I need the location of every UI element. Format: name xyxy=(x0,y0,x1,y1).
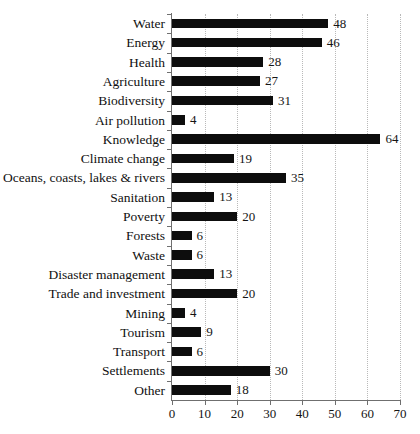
category-label: Biodiversity xyxy=(2,93,172,108)
bar-row: 30 xyxy=(172,361,400,380)
x-axis-tick-40 xyxy=(302,400,303,405)
bar-row: 19 xyxy=(172,149,400,168)
category-label: Water xyxy=(2,16,172,31)
bar xyxy=(172,57,263,67)
bar xyxy=(172,38,322,48)
bar-value-label: 4 xyxy=(190,305,197,320)
bar-value-label: 6 xyxy=(197,228,204,243)
bar xyxy=(172,308,185,318)
x-axis-tick-0 xyxy=(172,400,173,405)
category-label: Air pollution xyxy=(2,113,172,128)
bar xyxy=(172,231,192,241)
bar-row: 46 xyxy=(172,33,400,52)
y-axis-tick xyxy=(167,14,172,15)
category-label: Knowledge xyxy=(2,132,172,147)
category-label: Poverty xyxy=(2,209,172,224)
bar xyxy=(172,154,234,164)
bar-row: 31 xyxy=(172,91,400,110)
bar-row: 6 xyxy=(172,226,400,245)
bar-value-label: 46 xyxy=(327,35,340,50)
category-label: Health xyxy=(2,55,172,70)
bar-row: 20 xyxy=(172,207,400,226)
x-axis-tick-20 xyxy=(237,400,238,405)
category-label: Agriculture xyxy=(2,74,172,89)
bar xyxy=(172,19,328,29)
category-label: Mining xyxy=(2,306,172,321)
bar-value-label: 13 xyxy=(219,266,232,281)
bar-row: 27 xyxy=(172,72,400,91)
y-axis-tick xyxy=(167,207,172,208)
bar xyxy=(172,76,260,86)
bar-row: 64 xyxy=(172,130,400,149)
bar-value-label: 27 xyxy=(265,73,278,88)
category-axis-labels: WaterEnergyHealthAgricultureBiodiversity… xyxy=(0,14,172,400)
bar-row: 18 xyxy=(172,381,400,400)
bar-row: 20 xyxy=(172,284,400,303)
y-axis-tick xyxy=(167,188,172,189)
y-axis-tick xyxy=(167,342,172,343)
bar-value-label: 64 xyxy=(385,131,398,146)
category-label: Transport xyxy=(2,344,172,359)
bar-value-label: 4 xyxy=(190,112,197,127)
y-axis-tick xyxy=(167,111,172,112)
x-axis-tick-10 xyxy=(205,400,206,405)
bar-row: 9 xyxy=(172,323,400,342)
y-axis-tick xyxy=(167,361,172,362)
bar-row: 35 xyxy=(172,168,400,187)
bar-row: 28 xyxy=(172,53,400,72)
bar xyxy=(172,96,273,106)
x-axis-tick-70 xyxy=(400,400,401,405)
bar-value-label: 13 xyxy=(219,189,232,204)
bar-value-label: 20 xyxy=(242,286,255,301)
category-label: Climate change xyxy=(2,151,172,166)
x-axis-tick-50 xyxy=(335,400,336,405)
y-axis-tick xyxy=(167,265,172,266)
bar xyxy=(172,269,214,279)
category-label: Oceans, coasts, lakes & rivers xyxy=(2,170,172,185)
category-label: Tourism xyxy=(2,325,172,340)
bar-row: 48 xyxy=(172,14,400,33)
y-axis-tick xyxy=(167,91,172,92)
bar-value-label: 28 xyxy=(268,54,281,69)
bar-row: 13 xyxy=(172,188,400,207)
category-label: Waste xyxy=(2,248,172,263)
y-axis-tick xyxy=(167,72,172,73)
y-axis-tick xyxy=(167,381,172,382)
bar xyxy=(172,347,192,357)
bar xyxy=(172,250,192,260)
category-label: Other xyxy=(2,383,172,398)
y-axis-tick xyxy=(167,246,172,247)
bar xyxy=(172,212,237,222)
bar xyxy=(172,289,237,299)
bar-row: 4 xyxy=(172,304,400,323)
category-label: Energy xyxy=(2,35,172,50)
bar-row: 6 xyxy=(172,246,400,265)
y-axis-tick xyxy=(167,130,172,131)
bar xyxy=(172,192,214,202)
bar-value-label: 19 xyxy=(239,151,252,166)
bar-row: 4 xyxy=(172,111,400,130)
bar-value-label: 18 xyxy=(236,382,249,397)
category-label: Trade and investment xyxy=(2,286,172,301)
y-axis-tick xyxy=(167,53,172,54)
bar xyxy=(172,385,231,395)
bar-chart: WaterEnergyHealthAgricultureBiodiversity… xyxy=(0,0,420,434)
bar-value-label: 6 xyxy=(197,247,204,262)
category-label: Disaster management xyxy=(2,267,172,282)
bar-value-label: 6 xyxy=(197,344,204,359)
bar-value-label: 30 xyxy=(275,363,288,378)
bar-row: 6 xyxy=(172,342,400,361)
category-label: Settlements xyxy=(2,363,172,378)
plot-area: 4846282731464193513206613204963018 xyxy=(172,14,400,400)
bar-value-label: 31 xyxy=(278,93,291,108)
y-axis-tick xyxy=(167,149,172,150)
bar-value-label: 20 xyxy=(242,209,255,224)
bar-value-label: 48 xyxy=(333,16,346,31)
bar-value-label: 9 xyxy=(206,324,213,339)
y-axis-tick xyxy=(167,33,172,34)
x-axis-tick-label-70: 70 xyxy=(380,406,420,421)
category-label: Forests xyxy=(2,228,172,243)
y-axis-tick xyxy=(167,284,172,285)
x-axis-tick-60 xyxy=(367,400,368,405)
y-axis-tick xyxy=(167,304,172,305)
